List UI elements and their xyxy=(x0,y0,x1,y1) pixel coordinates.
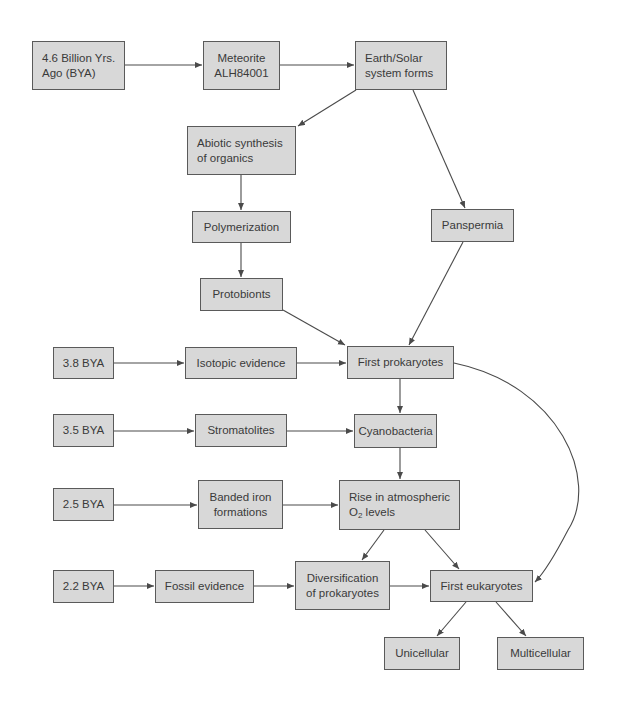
node-diversification: Diversification of prokaryotes xyxy=(295,561,390,610)
node-3.5-bya: 3.5 BYA xyxy=(53,414,114,447)
node-label: Banded iron formations xyxy=(209,490,271,520)
node-label: 4.6 Billion Yrs. Ago (BYA) xyxy=(42,51,115,81)
node-label: Abiotic synthesis of organics xyxy=(197,136,283,166)
node-label: Isotopic evidence xyxy=(197,356,286,371)
node-label: Meteorite ALH84001 xyxy=(214,51,268,81)
node-unicellular: Unicellular xyxy=(384,637,460,670)
origin-of-life-flowchart: 4.6 Billion Yrs. Ago (BYA) Meteorite ALH… xyxy=(0,0,618,706)
node-earth-forms: Earth/Solar system forms xyxy=(355,41,447,90)
node-first-eukaryotes: First eukaryotes xyxy=(430,570,533,602)
node-banded-iron: Banded iron formations xyxy=(198,480,283,529)
rise-o2-line1: Rise in atmospheric xyxy=(349,491,450,503)
node-2.5-bya: 2.5 BYA xyxy=(53,488,114,521)
node-label: Stromatolites xyxy=(207,423,274,438)
node-stromatolites: Stromatolites xyxy=(195,414,287,447)
arrow-panspermia-to-first-prokaryotes xyxy=(409,242,463,345)
node-meteorite: Meteorite ALH84001 xyxy=(203,41,280,90)
node-label: Diversification of prokaryotes xyxy=(306,571,379,601)
node-multicellular: Multicellular xyxy=(497,637,584,670)
node-cyanobacteria: Cyanobacteria xyxy=(354,414,437,448)
node-label: Cyanobacteria xyxy=(358,424,432,439)
node-first-prokaryotes: First prokaryotes xyxy=(347,346,454,379)
node-4.6-bya: 4.6 Billion Yrs. Ago (BYA) xyxy=(32,41,125,90)
node-protobionts: Protobionts xyxy=(200,278,283,311)
node-panspermia: Panspermia xyxy=(431,209,514,242)
node-label: 3.8 BYA xyxy=(63,356,104,371)
node-3.8-bya: 3.8 BYA xyxy=(53,347,114,379)
arrow-first-eukaryotes-to-multicellular xyxy=(496,602,526,636)
rise-o2-rest: levels xyxy=(362,506,395,518)
arrow-protobionts-to-first-prokaryotes xyxy=(283,310,345,345)
arrow-rise-o2-to-first-eukaryotes xyxy=(425,530,459,569)
node-label: Polymerization xyxy=(204,220,279,235)
rise-o2-o: O xyxy=(349,506,358,518)
node-label: Multicellular xyxy=(510,646,571,661)
node-fossil-evidence: Fossil evidence xyxy=(155,570,254,603)
node-label: Unicellular xyxy=(395,646,449,661)
node-abiotic-synthesis: Abiotic synthesis of organics xyxy=(187,126,296,175)
node-2.2-bya: 2.2 BYA xyxy=(53,570,114,603)
node-label: Panspermia xyxy=(442,218,503,233)
arrow-first-prokaryotes-to-first-eukaryotes xyxy=(454,363,579,582)
arrow-earth-to-abiotic xyxy=(298,90,356,126)
node-polymerization: Polymerization xyxy=(192,211,291,243)
node-label: 2.2 BYA xyxy=(63,579,104,594)
node-label: 2.5 BYA xyxy=(63,497,104,512)
arrow-earth-to-panspermia xyxy=(413,90,465,208)
node-label: Earth/Solar system forms xyxy=(365,51,433,81)
node-isotopic-evidence: Isotopic evidence xyxy=(185,347,297,379)
node-label: First eukaryotes xyxy=(441,579,523,594)
node-label: Protobionts xyxy=(212,287,270,302)
node-rise-o2: Rise in atmosphericO2 levels xyxy=(339,480,460,530)
node-label: Rise in atmosphericO2 levels xyxy=(349,490,450,520)
arrow-rise-o2-to-diversification xyxy=(362,530,384,560)
arrow-first-eukaryotes-to-unicellular xyxy=(437,602,466,636)
node-label: 3.5 BYA xyxy=(63,423,104,438)
node-label: Fossil evidence xyxy=(165,579,244,594)
node-label: First prokaryotes xyxy=(358,355,444,370)
